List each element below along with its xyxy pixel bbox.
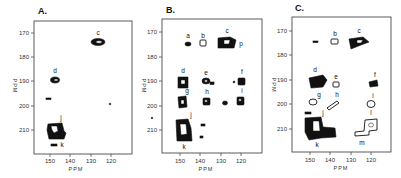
svg-text:b: b	[333, 30, 337, 37]
svg-text:130: 130	[216, 158, 227, 164]
x-axis-ticks: 150 140 130 120	[45, 154, 117, 164]
svg-text:k: k	[182, 143, 186, 150]
svg-text:e: e	[334, 73, 338, 80]
svg-text:170: 170	[147, 29, 158, 35]
svg-text:e: e	[204, 69, 208, 76]
peaks: a b c p d e f g h i j k	[151, 27, 245, 150]
svg-text:d: d	[313, 66, 317, 73]
svg-text:150: 150	[45, 158, 56, 164]
y-axis-ticks: 170 180 190 200 210	[147, 29, 162, 133]
svg-text:210: 210	[19, 127, 30, 133]
svg-text:210: 210	[147, 127, 158, 133]
svg-text:150: 150	[305, 157, 316, 163]
x-axis-label: PPM	[334, 165, 349, 171]
x-axis-ticks: 150 140 130 120	[175, 153, 247, 164]
svg-text:h: h	[335, 91, 339, 98]
svg-text:130: 130	[86, 158, 97, 164]
svg-text:190: 190	[19, 78, 30, 84]
svg-text:200: 200	[19, 103, 30, 109]
svg-text:180: 180	[147, 54, 158, 60]
svg-text:120: 120	[106, 158, 117, 164]
svg-text:k: k	[315, 141, 319, 148]
svg-text:140: 140	[65, 158, 76, 164]
svg-text:180: 180	[277, 52, 288, 58]
svg-text:j: j	[59, 114, 61, 122]
panel-a-plot: 170 180 190 200 210 150 140 130 120 PPM …	[0, 0, 135, 178]
y-axis-label: PPM	[12, 79, 18, 94]
svg-text:g: g	[317, 91, 321, 99]
svg-text:h: h	[205, 88, 209, 95]
svg-text:l: l	[370, 109, 372, 116]
panel-c-plot: 170 180 190 200 210 150 140 130 120 PPM …	[265, 0, 401, 178]
svg-text:f: f	[374, 71, 376, 78]
svg-text:130: 130	[346, 157, 357, 163]
svg-text:190: 190	[147, 78, 158, 84]
svg-text:f: f	[241, 68, 243, 75]
svg-text:j: j	[321, 109, 323, 117]
panel-b-plot: 170 180 190 200 210 150 140 130 120 PPM …	[130, 0, 265, 178]
y-axis-ticks: 170 180 190 200 210	[277, 28, 292, 132]
svg-text:140: 140	[195, 158, 206, 164]
svg-text:180: 180	[19, 54, 30, 60]
svg-text:c: c	[357, 27, 361, 34]
svg-text:i: i	[241, 87, 242, 94]
svg-text:170: 170	[19, 30, 30, 36]
panel-b: B. 170 180 190 200 210 150 140 130 120 P…	[130, 0, 265, 178]
y-axis-label: PPM	[271, 78, 277, 93]
svg-text:b: b	[201, 32, 205, 39]
svg-text:150: 150	[175, 158, 186, 164]
svg-text:200: 200	[277, 101, 288, 107]
y-axis-label: PPM	[141, 79, 147, 94]
x-axis-label: PPM	[69, 166, 84, 172]
y-axis-ticks: 170 180 190 200 210	[19, 30, 34, 133]
panel-a: A. 170 180 190 200 210 150 140 130 120 P…	[0, 0, 135, 178]
svg-text:190: 190	[277, 77, 288, 83]
peaks: c d j k	[46, 29, 111, 148]
peaks: b c d e f g h i j k l m	[305, 27, 378, 148]
svg-text:j: j	[189, 111, 191, 119]
svg-text:d: d	[181, 67, 185, 74]
svg-text:200: 200	[147, 103, 158, 109]
svg-text:m: m	[359, 139, 364, 146]
svg-text:120: 120	[236, 158, 247, 164]
svg-text:140: 140	[325, 157, 336, 163]
panel-c: C. 170 180 190 200 210 150 140 130 120 P…	[265, 0, 401, 178]
svg-text:120: 120	[366, 157, 377, 163]
svg-text:170: 170	[277, 28, 288, 34]
svg-text:210: 210	[277, 126, 288, 132]
x-axis-label: PPM	[199, 166, 214, 172]
x-axis-ticks: 150 140 130 120	[305, 152, 377, 163]
svg-text:c: c	[96, 29, 100, 36]
svg-text:d: d	[53, 67, 57, 74]
svg-text:k: k	[60, 141, 64, 148]
svg-text:g: g	[185, 87, 189, 95]
svg-text:c: c	[225, 27, 229, 34]
svg-text:p: p	[239, 40, 243, 48]
svg-text:i: i	[372, 92, 373, 99]
svg-text:a: a	[186, 32, 190, 39]
